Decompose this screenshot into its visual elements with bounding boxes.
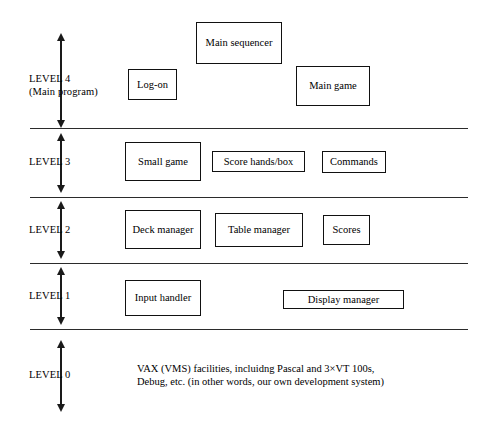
- level-0-description: VAX (VMS) facilities, incluidng Pascal a…: [137, 362, 384, 388]
- level-0-label: LEVEL 0: [29, 369, 70, 382]
- box-score-hands-box[interactable]: Score hands/box: [212, 151, 305, 172]
- arrow-head-down-icon: [57, 185, 65, 193]
- level-0-description-line-1: VAX (VMS) facilities, incluidng Pascal a…: [137, 362, 384, 375]
- box-scores-label: Scores: [333, 224, 361, 236]
- box-input-handler-label: Input handler: [135, 292, 191, 304]
- box-commands[interactable]: Commands: [322, 151, 386, 173]
- divider-level4-level3: [30, 128, 468, 129]
- box-log-on[interactable]: Log-on: [128, 69, 177, 100]
- box-display-manager-label: Display manager: [308, 294, 379, 306]
- level-0-label-main: LEVEL 0: [29, 369, 70, 380]
- box-main-sequencer[interactable]: Main sequencer: [196, 22, 282, 64]
- level-2-label-main: LEVEL 2: [29, 224, 70, 235]
- box-small-game[interactable]: Small game: [125, 142, 201, 181]
- box-main-game[interactable]: Main game: [296, 66, 370, 106]
- level-1-label: LEVEL 1: [29, 290, 70, 303]
- level-3-label-main: LEVEL 3: [29, 156, 70, 167]
- box-deck-manager[interactable]: Deck manager: [125, 210, 201, 249]
- arrow-head-down-icon: [57, 317, 65, 325]
- level-3-label: LEVEL 3: [29, 156, 70, 169]
- arrow-head-down-icon: [57, 404, 65, 412]
- box-deck-manager-label: Deck manager: [133, 224, 194, 236]
- level-1-label-main: LEVEL 1: [29, 290, 70, 301]
- arrow-head-down-icon: [57, 251, 65, 259]
- box-log-on-label: Log-on: [137, 79, 168, 91]
- box-display-manager[interactable]: Display manager: [283, 290, 404, 309]
- box-input-handler[interactable]: Input handler: [125, 280, 201, 316]
- box-table-manager-label: Table manager: [228, 224, 290, 236]
- box-score-hands-box-label: Score hands/box: [224, 156, 294, 168]
- box-small-game-label: Small game: [138, 156, 188, 168]
- box-table-manager[interactable]: Table manager: [215, 213, 303, 247]
- layered-system-diagram: LEVEL 4 (Main program) Log-on Main seque…: [0, 0, 478, 428]
- level-4-label: LEVEL 4 (Main program): [29, 73, 98, 98]
- level-4-label-sub: (Main program): [29, 86, 98, 99]
- box-commands-label: Commands: [330, 156, 378, 168]
- arrow-head-down-icon: [57, 120, 65, 128]
- divider-level1-level0: [30, 329, 468, 330]
- level-4-label-main: LEVEL 4: [29, 73, 70, 84]
- level-2-label: LEVEL 2: [29, 224, 70, 237]
- divider-level2-level1: [30, 263, 468, 264]
- box-main-game-label: Main game: [309, 80, 357, 92]
- box-scores[interactable]: Scores: [323, 215, 370, 245]
- box-main-sequencer-label: Main sequencer: [206, 37, 273, 49]
- level-0-description-line-2: Debug, etc. (in other words, our own dev…: [137, 375, 384, 388]
- divider-level3-level2: [30, 197, 468, 198]
